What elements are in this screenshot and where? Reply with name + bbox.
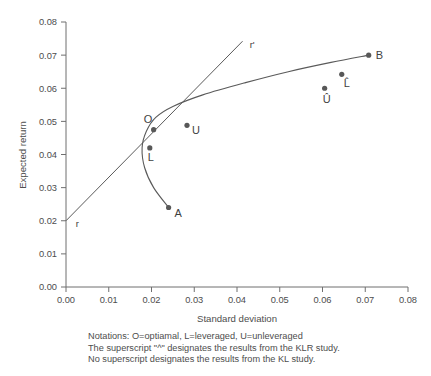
y-tick-label: 0.07	[39, 51, 57, 61]
y-tick-label: 0.08	[39, 17, 57, 27]
y-tick-label: 0.06	[39, 84, 57, 94]
efficient-frontier	[142, 55, 369, 207]
y-tick-label: 0.04	[39, 150, 57, 160]
data-point-marker	[322, 86, 327, 91]
chart-page: 0.000.010.020.030.040.050.060.070.08 0.0…	[0, 0, 431, 376]
y-axis-title: Expected return	[17, 121, 28, 189]
x-tick-label: 0.00	[57, 295, 75, 305]
data-point-marker	[184, 123, 189, 128]
y-tick-label: 0.01	[39, 249, 57, 259]
data-point-marker	[339, 72, 344, 77]
y-tick-label: 0.00	[39, 282, 57, 292]
y-axis-ticks: 0.000.010.020.030.040.050.060.070.08	[39, 17, 66, 292]
data-point-marker	[166, 205, 171, 210]
data-point-label: L̂	[344, 77, 350, 90]
line-annotations: rr'	[76, 39, 255, 229]
plot-curves	[66, 41, 369, 221]
x-tick-label: 0.03	[185, 295, 203, 305]
x-tick-label: 0.06	[313, 295, 331, 305]
x-axis-title: Standard deviation	[197, 313, 277, 324]
line-annotation-label: r	[76, 218, 79, 229]
footnote-line-2: The superscript "^" designates the resul…	[88, 343, 418, 355]
y-tick-label: 0.03	[39, 183, 57, 193]
data-point-label: L	[148, 151, 154, 163]
footnote-line-3: No superscript designates the results fr…	[88, 354, 418, 366]
x-tick-label: 0.04	[228, 295, 246, 305]
x-tick-label: 0.07	[356, 295, 374, 305]
data-point-label: U	[192, 124, 200, 136]
x-tick-label: 0.05	[271, 295, 289, 305]
axes	[66, 22, 408, 287]
data-point-label: B	[376, 49, 383, 61]
data-point-label: O	[144, 113, 153, 125]
efficient-frontier-chart: 0.000.010.020.030.040.050.060.070.08 0.0…	[0, 0, 431, 376]
data-point-marker	[366, 53, 371, 58]
x-tick-label: 0.08	[399, 295, 417, 305]
x-axis-ticks: 0.000.010.020.030.040.050.060.070.08	[57, 287, 417, 305]
y-tick-label: 0.05	[39, 117, 57, 127]
y-tick-label: 0.02	[39, 216, 57, 226]
footnote-line-1: Notations: O=optiamal, L=leveraged, U=un…	[88, 331, 418, 343]
data-point-label: A	[175, 207, 183, 219]
data-point-marker	[147, 145, 152, 150]
data-point-label: Û	[323, 93, 331, 105]
x-tick-label: 0.02	[142, 295, 160, 305]
line-annotation-label: r'	[250, 39, 255, 50]
data-points: OLUABL̂Û	[144, 49, 383, 218]
x-tick-label: 0.01	[100, 295, 118, 305]
data-point-marker	[151, 127, 156, 132]
chart-footnotes: Notations: O=optiamal, L=leveraged, U=un…	[88, 331, 418, 366]
